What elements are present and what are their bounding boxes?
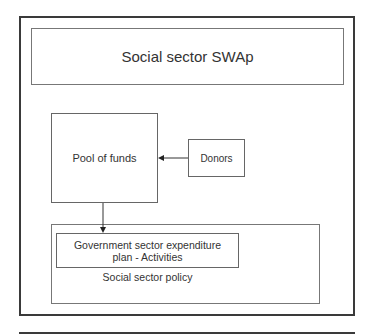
donors-node: Donors bbox=[188, 139, 245, 177]
pool-of-funds-node: Pool of funds bbox=[51, 113, 158, 203]
swap-title: Social sector SWAp bbox=[122, 48, 254, 65]
gov-plan-line1: Government sector expenditure bbox=[74, 239, 221, 251]
social-sector-policy-label: Social sector policy bbox=[56, 271, 239, 283]
donors-label: Donors bbox=[200, 153, 232, 164]
gov-plan-line2: plan - Activities bbox=[74, 251, 221, 263]
pool-of-funds-label: Pool of funds bbox=[72, 152, 136, 164]
swap-title-box: Social sector SWAp bbox=[31, 28, 344, 85]
gov-expenditure-plan-node: Government sector expenditure plan - Act… bbox=[56, 233, 239, 268]
